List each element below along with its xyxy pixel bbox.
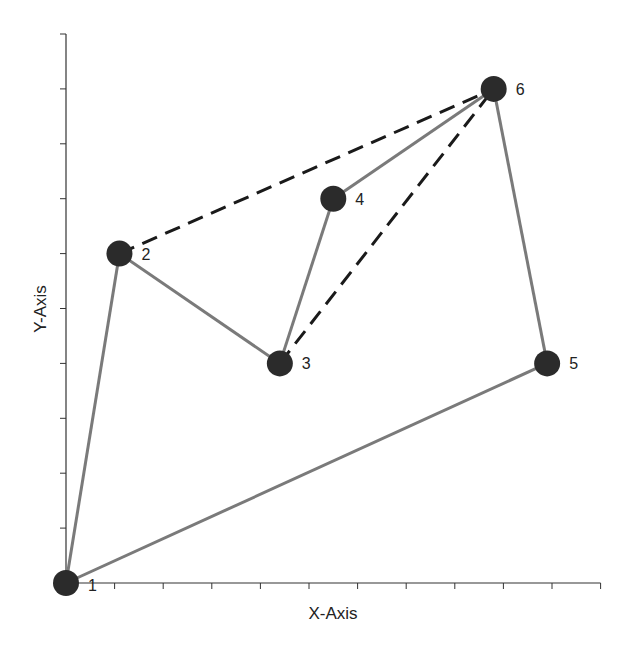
solid-edges [66, 89, 547, 583]
edge-3-4 [280, 199, 333, 364]
node-5 [534, 350, 560, 376]
polygon-diagram: 123456 X-Axis Y-Axis [0, 0, 626, 656]
dashed-edges [119, 89, 493, 364]
edge-5-1 [66, 363, 547, 583]
x-axis-label: X-Axis [308, 604, 357, 623]
node-label-4: 4 [355, 191, 364, 208]
y-axis-label: Y-Axis [31, 285, 50, 333]
node-label-3: 3 [302, 355, 311, 372]
node-6 [481, 76, 507, 102]
node-4 [320, 186, 346, 212]
node-3 [267, 350, 293, 376]
node-2 [106, 241, 132, 267]
node-label-5: 5 [569, 355, 578, 372]
edge-4-6 [333, 89, 493, 199]
node-1 [53, 570, 79, 596]
edge-1-2 [66, 254, 119, 583]
node-label-6: 6 [516, 81, 525, 98]
node-label-2: 2 [141, 246, 150, 263]
node-label-1: 1 [88, 577, 97, 594]
edge-6-5 [494, 89, 547, 364]
dashed-edge-3-6 [280, 89, 494, 364]
axes [60, 34, 601, 589]
dashed-edge-2-6 [119, 89, 493, 254]
nodes: 123456 [53, 76, 578, 596]
edge-2-3 [119, 254, 279, 364]
